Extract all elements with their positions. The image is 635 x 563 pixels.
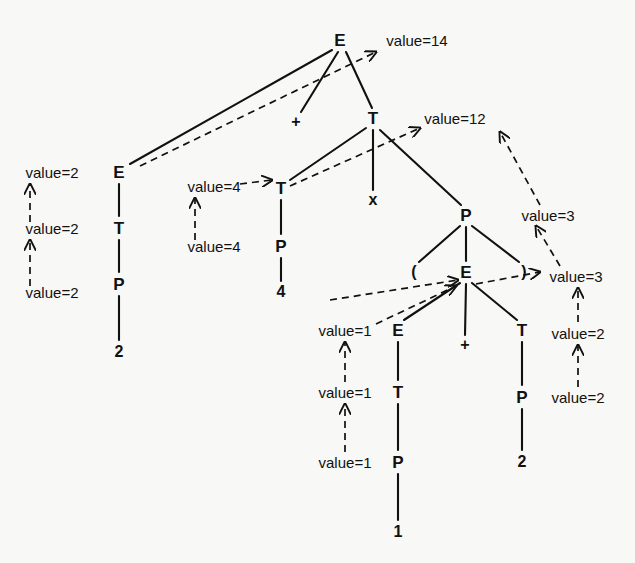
value-annotation: value=14: [386, 33, 447, 48]
tree-node-+: +: [291, 114, 300, 130]
tree-node-P: P: [516, 389, 527, 406]
tree-node-rparen: ): [521, 264, 526, 280]
tree-node-P: P: [392, 454, 403, 471]
tree-node-2: 2: [518, 454, 527, 470]
value-annotation: value=1: [319, 323, 372, 338]
tree-node-P: P: [460, 207, 471, 224]
value-annotation: value=1: [319, 455, 372, 470]
tree-node-4: 4: [277, 284, 286, 300]
value-annotation: value=2: [26, 221, 79, 236]
tree-node-P: P: [113, 276, 124, 293]
value-annotation: value=12: [424, 111, 485, 126]
value-annotation: value=3: [522, 208, 575, 223]
tree-node-P: P: [275, 238, 286, 255]
value-annotation: value=2: [552, 326, 605, 341]
tree-node-+: +: [460, 337, 469, 353]
value-annotation: value=2: [26, 165, 79, 180]
tree-node-2: 2: [115, 344, 124, 360]
tree-node-T: T: [276, 180, 286, 197]
tree-node-E: E: [392, 322, 403, 339]
tree-node-T: T: [114, 220, 124, 237]
tree-node-lparen: (: [411, 264, 416, 280]
value-annotation: value=2: [26, 285, 79, 300]
value-annotation: value=1: [319, 385, 372, 400]
tree-node-E: E: [334, 32, 345, 49]
value-annotation: value=4: [188, 239, 241, 254]
tree-node-1: 1: [394, 524, 403, 540]
tree-node-T: T: [393, 384, 403, 401]
tree-node-E: E: [460, 264, 471, 281]
tree-node-E: E: [113, 164, 124, 181]
tree-node-x: x: [369, 192, 378, 208]
value-annotation: value=4: [188, 179, 241, 194]
value-annotation: value=2: [552, 390, 605, 405]
tree-node-T: T: [517, 322, 527, 339]
parse-tree-diagram: EE+TTP2TxPP4(E)E+TTPP21value=14value=12v…: [0, 0, 635, 563]
tree-node-T: T: [368, 110, 378, 127]
node-label-layer: EE+TTP2TxPP4(E)E+TTPP21value=14value=12v…: [0, 0, 635, 563]
value-annotation: value=3: [550, 269, 603, 284]
